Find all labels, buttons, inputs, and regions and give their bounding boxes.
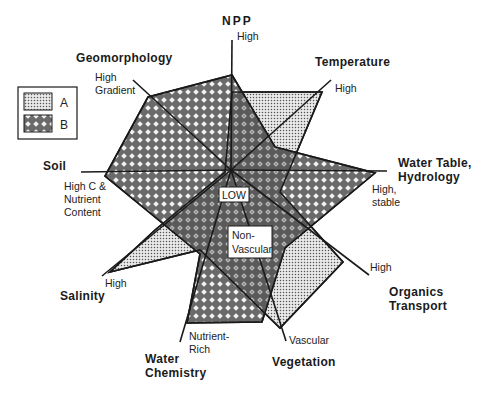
- axis-title-water-table-1: Water Table,: [398, 156, 472, 170]
- center-low-box: LOW: [219, 187, 249, 202]
- axis-title-organics-2: Transport: [389, 299, 447, 313]
- legend: A B: [18, 87, 77, 139]
- non-vascular-box: Non- Vascular: [228, 226, 273, 258]
- axis-high-water-chem-1: Nutrient-: [189, 330, 230, 342]
- legend-label-b: B: [60, 118, 68, 132]
- axis-title-geomorphology: Geomorphology: [76, 51, 173, 65]
- axis-high-npp: High: [237, 30, 259, 42]
- axis-water-table: [231, 170, 387, 171]
- axis-high-water-chem-2: Rich: [189, 343, 210, 355]
- axis-title-npp: NPP: [222, 14, 253, 28]
- axis-high-vegetation: Vascular: [289, 334, 330, 346]
- legend-swatch-b: [24, 115, 52, 132]
- axis-high-water-table-2: stable: [372, 196, 400, 208]
- axis-title-salinity: Salinity: [60, 289, 105, 303]
- axis-title-water-table-2: Hydrology: [398, 170, 460, 184]
- axis-high-geomorphology-2: Gradient: [95, 84, 135, 96]
- axis-high-temperature: High: [335, 82, 357, 94]
- legend-swatch-a: [24, 93, 52, 110]
- axis-high-geomorphology-1: High: [95, 71, 117, 83]
- radar-diagram: LOW Non- Vascular NPP High Temperature H…: [0, 0, 495, 400]
- axis-title-water-chem-2: Chemistry: [145, 366, 206, 380]
- axis-npp: [231, 40, 232, 170]
- axis-high-water-table-1: High,: [372, 183, 397, 195]
- legend-label-a: A: [60, 96, 68, 110]
- axis-high-soil-2: Nutrient: [64, 193, 101, 205]
- axis-high-organics: High: [370, 261, 392, 273]
- non-vascular-label-1: Non-: [232, 229, 255, 241]
- axis-high-soil-1: High C &: [64, 180, 106, 192]
- non-vascular-label-2: Vascular: [232, 243, 273, 255]
- axis-title-vegetation: Vegetation: [272, 355, 336, 369]
- axis-title-soil: Soil: [43, 159, 66, 173]
- axis-title-water-chem-1: Water: [145, 352, 179, 366]
- axis-title-organics-1: Organics: [389, 285, 443, 299]
- center-low-label: LOW: [222, 189, 246, 201]
- axis-high-salinity: High: [105, 277, 127, 289]
- axis-title-temperature: Temperature: [315, 55, 390, 69]
- axis-high-soil-3: Content: [64, 206, 101, 218]
